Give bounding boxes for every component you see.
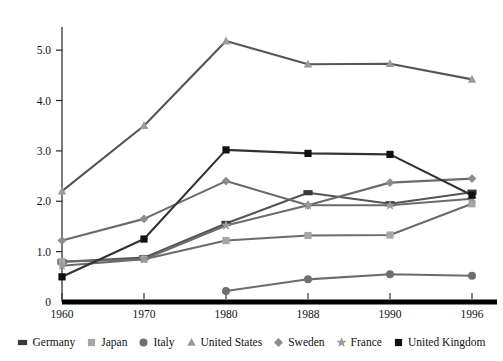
- y-tick-label: 5.0: [37, 44, 52, 56]
- series-united-states: [58, 36, 476, 194]
- data-point-marker: [222, 287, 230, 295]
- y-tick-label: 0: [45, 296, 51, 308]
- data-point-marker: [222, 177, 231, 186]
- data-point-marker: [58, 273, 65, 280]
- dash-marker-icon: [17, 337, 28, 348]
- x-tick-label: 1980: [215, 308, 238, 320]
- data-point-marker: [222, 237, 229, 244]
- data-point-marker: [222, 146, 229, 153]
- data-point-marker: [336, 337, 346, 347]
- data-point-marker: [18, 339, 27, 344]
- data-point-marker: [386, 270, 394, 278]
- data-point-marker: [274, 338, 283, 347]
- x-tick-label: 1990: [379, 308, 402, 320]
- data-point-marker: [468, 192, 475, 199]
- diamond-marker-icon: [273, 337, 284, 348]
- star-marker-icon: [336, 337, 347, 348]
- x-tick-label: 1970: [133, 308, 156, 320]
- x-axis-group: 196019701980198819901996: [51, 293, 498, 320]
- data-point-marker: [304, 150, 311, 157]
- plot-area: 01.02.03.04.05.0 19601970198019881990199…: [0, 0, 503, 322]
- legend-label: France: [351, 337, 382, 348]
- data-point-marker: [187, 337, 195, 345]
- plot-svg: 01.02.03.04.05.0 19601970198019881990199…: [0, 0, 503, 322]
- chart-legend: GermanyJapanItalyUnited StatesSwedenFran…: [0, 330, 503, 354]
- data-point-marker: [304, 275, 312, 283]
- data-point-marker: [58, 236, 67, 245]
- data-point-marker: [140, 235, 147, 242]
- data-point-marker: [88, 338, 95, 345]
- legend-item-sweden[interactable]: Sweden: [273, 337, 324, 348]
- data-point-marker: [386, 231, 393, 238]
- y-tick-label: 2.0: [37, 195, 52, 207]
- series-group: [57, 36, 477, 294]
- y-tick-label: 3.0: [37, 145, 52, 157]
- legend-item-united-states[interactable]: United States: [186, 337, 263, 348]
- data-point-marker: [468, 174, 477, 183]
- data-point-marker: [395, 338, 402, 345]
- data-point-marker: [386, 151, 393, 158]
- legend-item-france[interactable]: France: [336, 337, 382, 348]
- legend-label: United States: [201, 337, 263, 348]
- legend-item-japan[interactable]: Japan: [86, 337, 127, 348]
- circle-marker-icon: [138, 337, 149, 348]
- x-tick-label: 1996: [461, 308, 484, 320]
- y-axis-group: 01.02.03.04.05.0: [37, 27, 62, 308]
- triangle-marker-icon: [186, 337, 197, 348]
- series-sweden: [58, 174, 477, 245]
- y-tick-label: 4.0: [37, 95, 52, 107]
- y-tick-label: 1.0: [37, 246, 52, 258]
- line-chart: 01.02.03.04.05.0 19601970198019881990199…: [0, 0, 503, 361]
- data-point-marker: [386, 178, 395, 187]
- legend-label: United Kingdom: [408, 337, 486, 348]
- legend-item-united-kingdom[interactable]: United Kingdom: [393, 337, 486, 348]
- filled-square-marker-icon: [393, 337, 404, 348]
- data-point-marker: [222, 36, 230, 44]
- series-japan: [58, 200, 475, 265]
- legend-label: Germany: [32, 337, 75, 348]
- data-point-marker: [304, 232, 311, 239]
- legend-label: Sweden: [288, 337, 324, 348]
- legend-label: Japan: [101, 337, 127, 348]
- legend-label: Italy: [153, 337, 174, 348]
- data-point-marker: [140, 338, 148, 346]
- square-marker-icon: [86, 337, 97, 348]
- legend-item-germany[interactable]: Germany: [17, 337, 75, 348]
- x-tick-label: 1960: [51, 308, 74, 320]
- series-italy: [222, 270, 476, 295]
- data-point-marker: [140, 214, 149, 223]
- x-tick-label: 1988: [297, 308, 320, 320]
- data-point-marker: [468, 272, 476, 280]
- legend-item-italy[interactable]: Italy: [138, 337, 174, 348]
- data-point-marker: [303, 190, 312, 195]
